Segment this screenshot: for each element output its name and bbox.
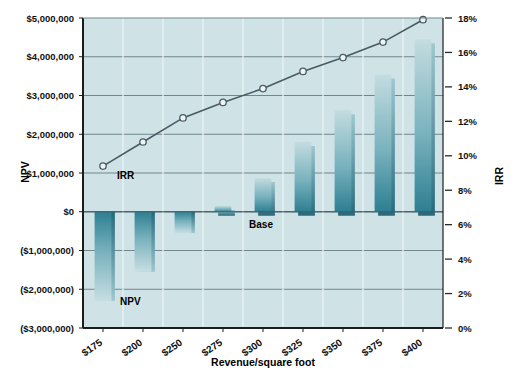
base-label: Base [249, 219, 273, 230]
irr-data-point [220, 99, 226, 105]
y-axis-tick-label: ($3,000,000) [20, 323, 74, 334]
irr-data-point [140, 139, 146, 145]
y-axis-right-tick-label: 18% [458, 13, 478, 24]
chart-svg: $5,000,000$4,000,000$3,000,000$2,000,000… [0, 0, 519, 376]
irr-label: IRR [117, 170, 135, 181]
y-axis-tick-label: $4,000,000 [26, 51, 74, 62]
bar [95, 212, 115, 301]
y-axis-right-tick-label: 14% [458, 81, 478, 92]
y-axis-right-tick-label: 16% [458, 47, 478, 58]
bar [135, 212, 155, 272]
bar [295, 142, 315, 216]
y-axis-tick-label: $3,000,000 [26, 90, 74, 101]
y-axis-right-tick-label: 2% [458, 288, 472, 299]
y-axis-right-tick-label: 6% [458, 219, 472, 230]
npv-irr-sensitivity-chart: $5,000,000$4,000,000$3,000,000$2,000,000… [0, 0, 519, 376]
y-axis-right-tick-label: 4% [458, 254, 472, 265]
bar [415, 39, 435, 215]
irr-data-point [180, 115, 186, 121]
irr-data-point [340, 54, 346, 60]
irr-data-point [380, 39, 386, 45]
y-axis-tick-label: $5,000,000 [26, 13, 74, 24]
npv-label: NPV [120, 296, 141, 307]
y-axis-right-tick-label: 10% [458, 150, 478, 161]
y-axis-tick-label: ($2,000,000) [20, 284, 74, 295]
y-axis-tick-label: $1,000,000 [26, 168, 74, 179]
irr-data-point [300, 68, 306, 74]
y-axis-tick-label: $0 [63, 206, 74, 217]
bar [255, 178, 275, 216]
y-axis-tick-label: $2,000,000 [26, 129, 74, 140]
irr-data-point [260, 85, 266, 91]
bar [335, 110, 355, 216]
y-axis-right-tick-label: 8% [458, 185, 472, 196]
irr-data-point [420, 17, 426, 23]
bar [375, 75, 395, 216]
y-axis-right-tick-label: 0% [458, 323, 472, 334]
irr-data-point [100, 163, 106, 169]
bar [175, 212, 195, 233]
y-axis-right-tick-label: 12% [458, 116, 478, 127]
y-axis-right-title: IRR [493, 167, 505, 186]
y-axis-title: NPV [19, 161, 31, 183]
y-axis-tick-label: ($1,000,000) [20, 245, 74, 256]
x-axis-title: Revenue/square foot [211, 356, 315, 368]
